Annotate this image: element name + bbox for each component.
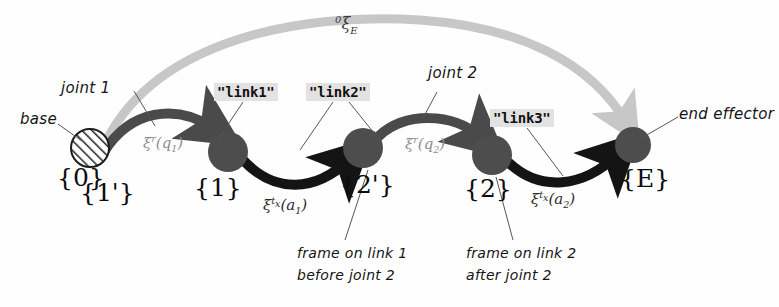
frame-label-2: {2} (464, 176, 512, 201)
end-effector-annotation: end effector (679, 105, 774, 123)
rot2-close: ) (439, 135, 445, 153)
frame-label-E: {E} (620, 166, 670, 191)
frame-link1-line1: frame on link 1 (297, 245, 407, 261)
kinematic-chain-figure: 0ξE base joint 1 joint 2 end effector fr… (0, 0, 779, 307)
overall-pose-sub: E (350, 25, 357, 36)
frame-1-node (208, 132, 248, 172)
base-annotation: base (20, 110, 57, 128)
leader-link3 (527, 128, 563, 176)
rotation-joint-1-label: ξr(q1) (143, 134, 183, 154)
link1-code-label: "link1" (214, 83, 278, 101)
end-effector-node (615, 127, 651, 163)
link2-code-label: "link2" (306, 83, 370, 101)
frame-label-1-prime: {1'} (80, 180, 135, 205)
joint-2-annotation: joint 2 (428, 64, 477, 82)
base-joint-node (71, 129, 109, 167)
link3-code-label: "link3" (490, 109, 554, 127)
rotation-joint-2-label: ξr(q2) (405, 135, 445, 155)
trans2-arg: (a (548, 190, 563, 208)
frame-link1-line2: before joint 2 (297, 267, 395, 283)
translation-link-2-arc (509, 155, 617, 182)
trans1-close: ) (301, 196, 307, 214)
frame-2-prime-node (343, 128, 383, 168)
overall-pose-label: 0ξE (335, 14, 358, 36)
frame-2-node (472, 135, 512, 175)
leader-link2-left (300, 102, 333, 150)
rot1-close: ) (177, 134, 183, 152)
trans1-arg: (a (280, 196, 295, 214)
frame-link2-line1: frame on link 2 (466, 245, 576, 261)
translation-link-1-label: ξtx(a1) (263, 196, 307, 216)
overall-pose-xi: ξ (341, 14, 350, 33)
frame-label-2-prime: {2'} (340, 172, 395, 197)
rot1-arg: (q (156, 134, 171, 152)
translation-link-2-label: ξtx(a2) (531, 190, 575, 210)
frame-link2-line2: after joint 2 (466, 267, 552, 283)
trans2-close: ) (569, 190, 575, 208)
frame-label-1: {1} (194, 175, 242, 200)
translation-link-1-arc (243, 160, 349, 185)
rot2-arg: (q (418, 135, 433, 153)
leader-end-effector (638, 117, 678, 140)
joint-1-annotation: joint 1 (61, 79, 110, 97)
